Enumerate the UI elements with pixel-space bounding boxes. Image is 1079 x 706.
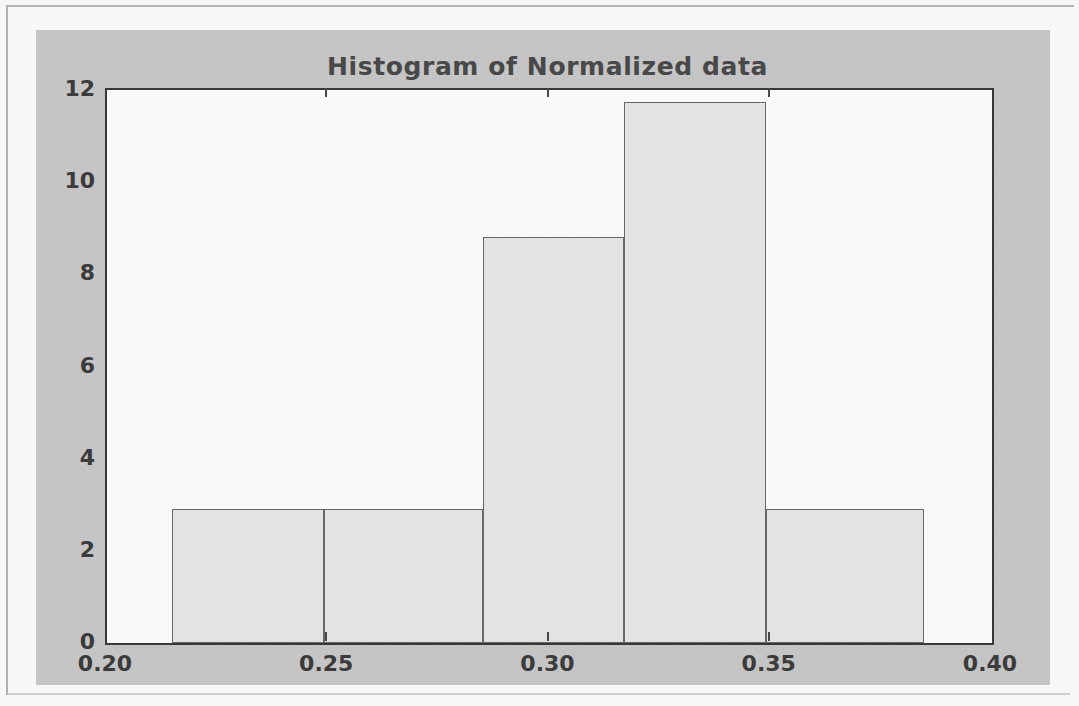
scanned-page: Histogram of Normalized data 024681012 0… <box>0 0 1079 706</box>
x-tick-mark-top <box>325 88 327 97</box>
y-tick-label: 8 <box>49 260 95 285</box>
x-tick-mark-top <box>547 88 549 97</box>
y-tick-label: 6 <box>49 352 95 377</box>
chart-title: Histogram of Normalized data <box>105 52 990 81</box>
y-tick-label: 4 <box>49 444 95 469</box>
matplotlib-figure: Histogram of Normalized data 024681012 0… <box>36 30 1050 685</box>
plot-axes <box>105 88 994 645</box>
scan-rule-bottom <box>8 693 1070 695</box>
histogram-bar <box>766 509 924 643</box>
y-tick-label: 0 <box>49 629 95 654</box>
x-tick-label: 0.20 <box>50 651 160 676</box>
histogram-bar <box>172 509 324 643</box>
x-tick-label: 0.30 <box>493 651 603 676</box>
x-tick-label: 0.25 <box>271 651 381 676</box>
histogram-bar <box>624 102 766 643</box>
x-tick-mark-top <box>768 88 770 97</box>
scan-rule-top <box>6 5 1074 7</box>
plot-area <box>107 90 992 643</box>
x-tick-mark <box>325 632 327 641</box>
histogram-bar <box>483 237 624 643</box>
x-tick-label: 0.35 <box>714 651 824 676</box>
y-tick-label: 12 <box>49 76 95 101</box>
x-tick-label: 0.40 <box>935 651 1045 676</box>
scan-rule-left <box>6 5 8 695</box>
y-tick-label: 10 <box>49 168 95 193</box>
x-tick-mark <box>768 632 770 641</box>
x-tick-mark <box>547 632 549 641</box>
histogram-bar <box>324 509 483 643</box>
y-tick-label: 2 <box>49 536 95 561</box>
